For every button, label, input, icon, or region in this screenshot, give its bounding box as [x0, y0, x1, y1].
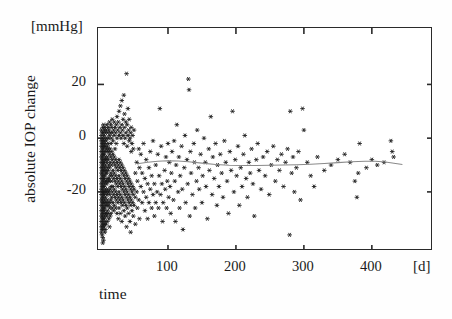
data-point	[154, 201, 158, 204]
data-point	[193, 206, 197, 209]
data-point	[161, 220, 165, 223]
data-point	[251, 182, 255, 185]
data-point	[180, 188, 184, 191]
data-point	[297, 150, 301, 153]
data-point	[292, 190, 296, 193]
data-point	[365, 166, 369, 169]
data-point	[144, 158, 148, 161]
data-point	[129, 231, 133, 234]
data-point	[218, 153, 222, 156]
data-point	[390, 150, 394, 153]
data-point	[125, 225, 129, 228]
data-point	[174, 220, 178, 223]
data-point	[273, 180, 277, 183]
data-point	[353, 180, 357, 183]
data-point	[240, 185, 244, 188]
data-point	[169, 212, 173, 215]
data-point	[192, 142, 196, 145]
data-point	[117, 110, 121, 113]
data-point	[284, 161, 288, 164]
data-point	[302, 128, 306, 131]
y-tick-label-group: 200-20	[36, 0, 86, 319]
data-point	[301, 107, 305, 110]
data-point	[188, 214, 192, 217]
data-point	[166, 142, 170, 145]
data-point	[295, 166, 299, 169]
data-point	[159, 193, 163, 196]
data-point	[183, 134, 187, 137]
plot-area: 5th-order polynomial fit	[97, 27, 432, 250]
data-point	[329, 163, 333, 166]
data-point	[150, 174, 154, 177]
data-point	[126, 107, 130, 110]
data-point	[123, 214, 127, 217]
data-point	[195, 180, 199, 183]
data-point	[185, 158, 189, 161]
data-point	[122, 142, 126, 145]
data-point	[142, 190, 146, 193]
x-tick-label: 300	[292, 258, 314, 275]
data-point	[117, 206, 121, 209]
data-point	[157, 206, 161, 209]
data-point	[178, 206, 182, 209]
data-point	[392, 155, 396, 158]
data-point	[209, 115, 213, 118]
data-point	[197, 166, 201, 169]
x-tick-label: 200	[224, 258, 246, 275]
data-point	[168, 185, 172, 188]
x-axis-title: time	[99, 285, 127, 303]
data-point	[175, 123, 179, 126]
data-point	[142, 142, 146, 145]
data-point	[122, 94, 126, 97]
data-point	[137, 198, 141, 201]
data-point	[108, 225, 112, 228]
data-point	[237, 204, 241, 207]
data-point	[144, 196, 148, 199]
data-point	[153, 214, 157, 217]
data-point	[250, 147, 254, 150]
scatter-points	[100, 72, 396, 245]
data-point	[174, 163, 178, 166]
data-point	[172, 198, 176, 201]
data-point	[121, 118, 125, 121]
data-point	[127, 118, 131, 121]
data-point	[286, 147, 290, 150]
data-point	[146, 182, 150, 185]
data-point	[316, 155, 320, 158]
data-point	[186, 77, 190, 80]
data-point	[170, 150, 174, 153]
data-point	[125, 145, 129, 148]
data-point	[375, 163, 379, 166]
data-point	[119, 212, 123, 215]
data-point	[130, 209, 134, 212]
data-point	[355, 196, 359, 199]
data-point	[267, 193, 271, 196]
data-point	[167, 196, 171, 199]
data-point	[271, 145, 275, 148]
data-point	[140, 171, 144, 174]
data-point	[358, 142, 362, 145]
data-point	[148, 188, 152, 191]
data-point	[220, 171, 224, 174]
data-point	[187, 88, 191, 91]
data-point	[138, 217, 142, 220]
data-point	[125, 72, 129, 75]
data-point	[184, 201, 188, 204]
data-point	[165, 206, 169, 209]
data-point	[147, 201, 151, 204]
y-tick-label: 20	[72, 73, 87, 90]
data-point	[133, 171, 137, 174]
data-point	[140, 201, 144, 204]
data-point	[309, 174, 313, 177]
data-point	[207, 147, 211, 150]
data-point	[247, 161, 251, 164]
data-point	[243, 134, 247, 137]
data-point	[120, 99, 124, 102]
data-point	[147, 166, 151, 169]
data-point	[278, 169, 282, 172]
data-point	[161, 201, 165, 204]
data-point	[189, 171, 193, 174]
data-point	[288, 233, 292, 236]
data-point	[228, 150, 232, 153]
data-point	[231, 110, 235, 113]
